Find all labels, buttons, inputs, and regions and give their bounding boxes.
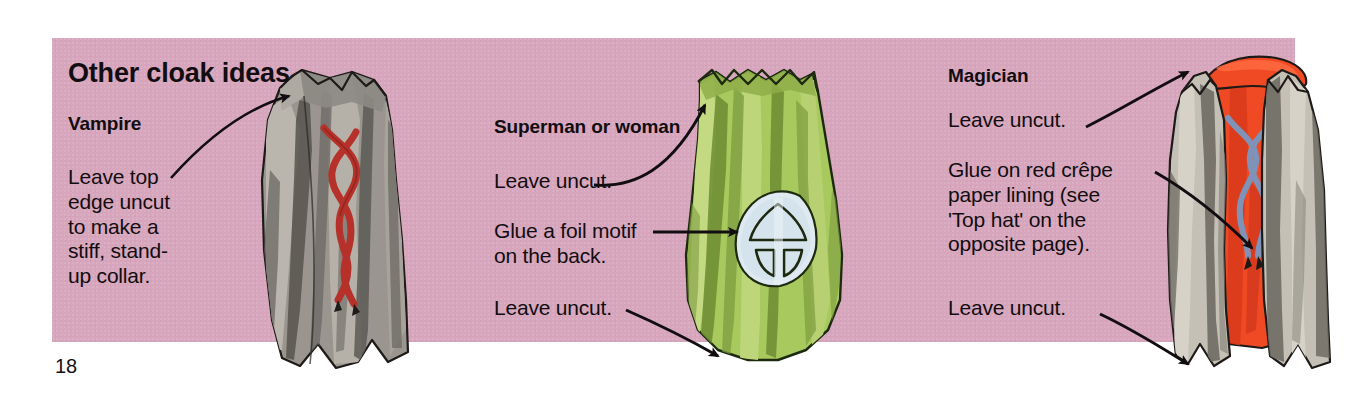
note-superman-motif: Glue a foil motif on the back.	[494, 219, 637, 269]
arrow-magician-top	[1086, 72, 1188, 127]
note-vampire-collar: Leave top edge uncut to make a stiff, st…	[68, 165, 170, 289]
section-title-superman: Superman or woman	[494, 116, 680, 138]
section-title-vampire: Vampire	[68, 113, 141, 135]
note-magician-lining: Glue on red crêpe paper lining (see 'Top…	[948, 158, 1113, 257]
page-number: 18	[55, 355, 77, 379]
arrow-vampire-collar	[171, 96, 289, 178]
note-superman-top: Leave uncut.	[494, 169, 612, 194]
note-magician-hem: Leave uncut.	[948, 296, 1066, 321]
arrow-superman-hem	[626, 310, 718, 356]
note-magician-top: Leave uncut.	[948, 108, 1066, 133]
arrow-magician-lining	[1155, 172, 1252, 248]
section-title-magician: Magician	[948, 65, 1029, 87]
note-superman-hem: Leave uncut.	[494, 296, 612, 321]
arrow-magician-hem	[1100, 314, 1188, 364]
page-title: Other cloak ideas	[68, 58, 290, 90]
page-canvas: Other cloak ideas Vampire Leave top edge…	[0, 0, 1372, 405]
